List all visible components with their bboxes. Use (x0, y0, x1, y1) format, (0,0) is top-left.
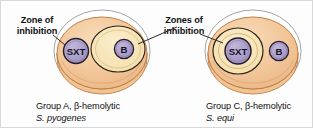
plate-c-disk-sxt: SXT (225, 38, 251, 64)
plate-a-disk-b: B (114, 39, 133, 58)
plate-c-disk-sxt-label: SXT (229, 46, 248, 57)
plate-a-disk-b-label: B (121, 44, 128, 55)
plate-a-disk-sxt: SXT (64, 39, 89, 64)
plate-a-disk-sxt-label: SXT (67, 46, 86, 57)
petri-dish-illustration: SXT B (1, 1, 313, 128)
plate-c-disk-b: B (269, 41, 288, 60)
plate-group-a: SXT B (54, 10, 150, 94)
figure-disk-diffusion-streptococcus: Zone of inhibition Zones of inhibition G… (0, 0, 313, 128)
plate-group-c: SXT B (205, 10, 301, 94)
plate-c-disk-b-label: B (276, 46, 283, 57)
